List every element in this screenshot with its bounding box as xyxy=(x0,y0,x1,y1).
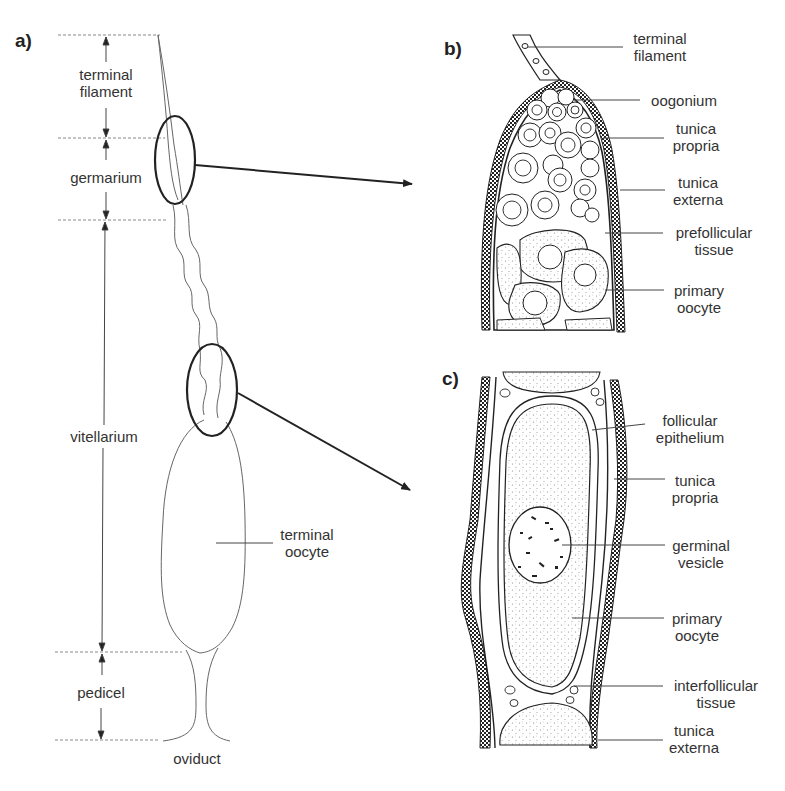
label-vitellarium: vitellarium xyxy=(58,428,150,445)
label-c-germinal-vesicle: germinal vesicle xyxy=(666,537,736,571)
label-germarium: germarium xyxy=(58,169,154,186)
panel-b-drawing xyxy=(481,35,665,332)
label-terminal-filament-a: terminal filament xyxy=(70,66,142,100)
label-b-tunica-propria: tunica propria xyxy=(667,120,725,154)
label-c-primary-oocyte: primary oocyte xyxy=(666,610,728,644)
label-terminal-oocyte: terminal oocyte xyxy=(272,526,342,560)
label-pedicel: pedicel xyxy=(68,684,134,701)
label-oviduct: oviduct xyxy=(165,750,229,767)
panel-a-drawing xyxy=(55,35,412,741)
label-c-tunica-externa: tunica externa xyxy=(663,722,725,756)
label-b-terminal-filament: terminal filament xyxy=(625,30,695,64)
figure-drawing xyxy=(0,0,785,791)
label-b-primary-oocyte: primary oocyte xyxy=(666,282,732,316)
panel-label-b: b) xyxy=(444,38,462,60)
label-b-tunica-externa: tunica externa xyxy=(667,174,729,208)
label-c-interfollicular-tissue: interfollicular tissue xyxy=(664,677,768,711)
label-c-follicular-epithelium: follicular epithelium xyxy=(648,412,732,446)
label-c-tunica-propria: tunica propria xyxy=(666,472,724,506)
label-b-prefollicular-tissue: prefollicular tissue xyxy=(665,224,763,258)
panel-c-drawing xyxy=(461,372,665,748)
label-b-oogonium: oogonium xyxy=(643,92,725,109)
panel-label-c: c) xyxy=(442,368,459,390)
panel-label-a: a) xyxy=(15,30,32,52)
